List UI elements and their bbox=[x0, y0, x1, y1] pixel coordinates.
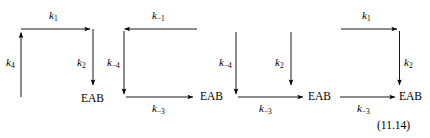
scheme-2-top-rate-label: k−1 bbox=[152, 10, 165, 21]
scheme-4-product-label: EAB bbox=[399, 91, 422, 103]
scheme-1-top-rate-label: k1 bbox=[49, 10, 58, 21]
equation-number: (11.14) bbox=[377, 120, 410, 132]
scheme-3-bottom-rate-label: k−3 bbox=[259, 103, 272, 114]
scheme-3-product-label: EAB bbox=[308, 91, 331, 103]
scheme-3-arrows bbox=[236, 32, 303, 97]
scheme-4-arrows bbox=[340, 29, 400, 97]
scheme-3-middle-rate-label: k2 bbox=[275, 57, 284, 68]
scheme-2-arrows bbox=[124, 29, 197, 97]
scheme-2-left-rate-label: k−4 bbox=[107, 57, 120, 68]
reaction-scheme-figure: k1 k4 k2 EAB k−1 k−4 k−3 EAB k−4 k2 k−3 … bbox=[0, 0, 430, 138]
scheme-1-product-label: EAB bbox=[81, 93, 104, 105]
scheme-4-bottom-rate-label: k−3 bbox=[357, 103, 370, 114]
scheme-1-right-rate-label: k2 bbox=[77, 57, 86, 68]
scheme-1-left-rate-label: k4 bbox=[6, 57, 15, 68]
scheme-2-product-label: EAB bbox=[200, 91, 223, 103]
scheme-3-left-rate-label: k−4 bbox=[219, 57, 232, 68]
scheme-2-bottom-rate-label: k−3 bbox=[152, 103, 165, 114]
scheme-4-top-rate-label: k1 bbox=[362, 10, 371, 21]
scheme-4-right-rate-label: k2 bbox=[404, 57, 413, 68]
